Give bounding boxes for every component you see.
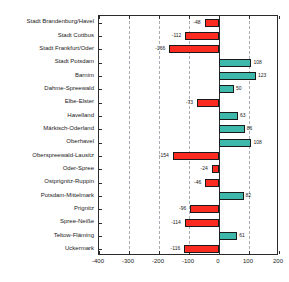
bar-value-label: -166 [155, 46, 165, 51]
y-tickmark [99, 209, 102, 210]
gridline-100 [249, 16, 250, 254]
bar-value-label: -96 [179, 206, 186, 211]
category-label: Stadt Cottbus [58, 32, 94, 38]
bar [173, 152, 219, 160]
y-tickmark [99, 249, 102, 250]
bar [205, 19, 219, 27]
category-label: Oder-Spree [63, 165, 94, 171]
x-tick-label: 0 [216, 258, 219, 264]
category-label: Stadt Potsdam [55, 58, 94, 64]
bar [190, 205, 219, 213]
y-tickmark [99, 236, 102, 237]
y-tickmark [99, 156, 102, 157]
bar [219, 192, 244, 200]
category-label: Potsdam-Mittelmark [41, 192, 94, 198]
category-label: Dahme-Spreewald [44, 85, 94, 91]
bar [185, 219, 219, 227]
gridline--300 [129, 16, 130, 254]
x-tick-label: 100 [243, 258, 253, 264]
x-tickmark [129, 251, 130, 254]
x-tick-label: -100 [182, 258, 194, 264]
bar-value-label: -24 [201, 166, 208, 171]
bar-value-label: 61 [239, 233, 245, 238]
category-label: Barnim [75, 72, 94, 78]
bar-value-label: 108 [253, 60, 261, 65]
x-tickmark [99, 251, 100, 254]
x-tick-label: -200 [152, 258, 164, 264]
bar-value-label: -112 [172, 33, 182, 38]
bar [169, 45, 219, 53]
bar-value-label: 108 [253, 140, 261, 145]
plot-area: -48-112-16610812350-736386108-154-24-468… [98, 15, 278, 255]
bar [219, 59, 251, 67]
category-label: Prignitz [74, 205, 94, 211]
x-tick-label: 200 [273, 258, 283, 264]
y-tickmark [99, 223, 102, 224]
y-tickmark [99, 129, 102, 130]
x-tickmark [219, 16, 220, 19]
bar [212, 165, 219, 173]
x-tick-label: -400 [92, 258, 104, 264]
category-label: Ostprignitz-Ruppin [44, 178, 94, 184]
value-axis-labels: -400-300-200-1000100200 [98, 258, 278, 272]
x-tick-label: -300 [122, 258, 134, 264]
bar [219, 139, 251, 147]
y-tickmark [99, 169, 102, 170]
bar [184, 245, 219, 253]
bar-value-label: -73 [186, 100, 193, 105]
gridline--200 [159, 16, 160, 254]
category-label: Teltow-Fläming [54, 232, 94, 238]
bar [219, 112, 238, 120]
category-label: Uckermark [65, 245, 94, 251]
y-tickmark [99, 63, 102, 64]
x-tickmark [279, 16, 280, 19]
y-tickmark [99, 23, 102, 24]
zero-axis-line [219, 16, 220, 254]
y-tickmark [99, 116, 102, 117]
y-tickmark [99, 76, 102, 77]
category-label: Oberhavel [66, 138, 94, 144]
category-label: Havelland [67, 112, 94, 118]
category-label: Stadt Brandenburg/Havel [27, 18, 94, 24]
category-label: Märkisch-Oderland [43, 125, 94, 131]
bar-value-label: -48 [193, 20, 200, 25]
bar [219, 72, 256, 80]
x-tickmark [279, 251, 280, 254]
x-tickmark [249, 16, 250, 19]
bar-value-label: -114 [171, 220, 181, 225]
y-tickmark [99, 103, 102, 104]
category-label: Elbe-Elster [65, 98, 94, 104]
x-tickmark [249, 251, 250, 254]
bar [197, 99, 219, 107]
x-tickmark [189, 16, 190, 19]
y-tickmark [99, 143, 102, 144]
x-tickmark [99, 16, 100, 19]
y-tickmark [99, 89, 102, 90]
bar-value-label: 86 [247, 126, 253, 131]
x-tickmark [159, 251, 160, 254]
bar-value-label: 82 [246, 193, 252, 198]
bar [219, 125, 245, 133]
bar-value-label: 123 [258, 73, 266, 78]
y-tickmark [99, 196, 102, 197]
x-tickmark [159, 16, 160, 19]
bar [185, 32, 219, 40]
x-tickmark [219, 251, 220, 254]
x-tickmark [129, 16, 130, 19]
bar-chart-figure: Stadt Brandenburg/HavelStadt CottbusStad… [0, 0, 289, 282]
category-axis-labels: Stadt Brandenburg/HavelStadt CottbusStad… [0, 15, 94, 255]
bar-value-label: -154 [159, 153, 169, 158]
bar-value-label: -46 [194, 180, 201, 185]
bar-value-label: 63 [240, 113, 246, 118]
bar [219, 232, 237, 240]
category-label: Oberspreewald-Lausitz [32, 152, 94, 158]
category-label: Stadt Frankfurt/Oder [39, 45, 94, 51]
bar-value-label: -116 [171, 246, 181, 251]
bar-value-label: 50 [236, 86, 242, 91]
category-label: Spree-Neiße [60, 218, 94, 224]
bar [205, 179, 219, 187]
y-tickmark [99, 183, 102, 184]
y-tickmark [99, 49, 102, 50]
bar [219, 85, 234, 93]
y-tickmark [99, 36, 102, 37]
